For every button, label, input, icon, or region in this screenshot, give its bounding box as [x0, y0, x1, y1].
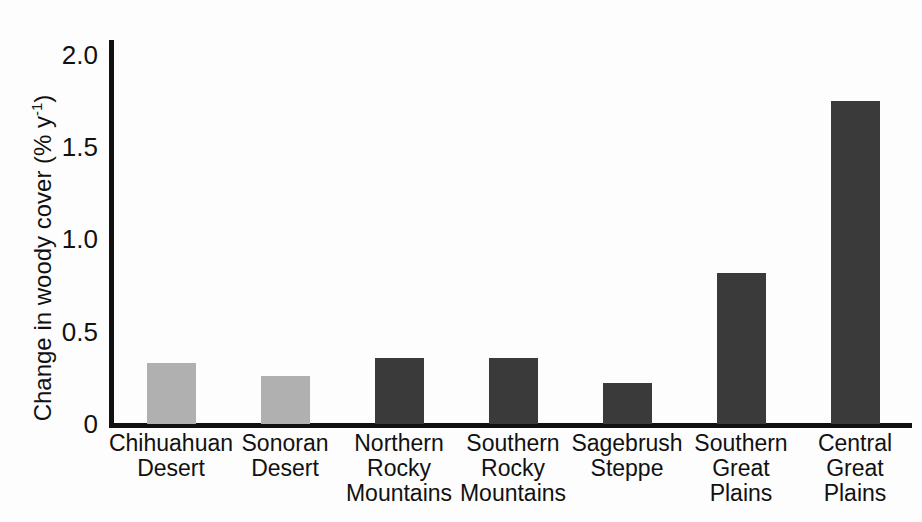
x-axis-category-label-line: Mountains [444, 481, 582, 506]
bar-chart-figure: Change in woody cover (% y-1) 00.51.01.5… [0, 0, 922, 522]
y-axis-tick-label: 1.5 [28, 132, 98, 163]
bar [831, 101, 880, 424]
bar [603, 383, 652, 424]
bar [717, 273, 766, 424]
bar [147, 363, 196, 424]
y-axis-tick-label: 2.0 [28, 39, 98, 70]
x-axis-category-label-line: Great [786, 456, 922, 481]
bar [261, 376, 310, 424]
plot-area [114, 40, 912, 424]
x-axis-category-labels: ChihuahuanDesertSonoranDesertNorthernRoc… [114, 431, 912, 521]
bar [375, 358, 424, 424]
x-axis-category-label-line: Central [786, 431, 922, 456]
y-axis-tick-label: 0 [28, 409, 98, 440]
x-axis-category-label-line: Plains [786, 481, 922, 506]
bar [489, 358, 538, 424]
y-axis-tick-label: 1.0 [28, 224, 98, 255]
y-axis-tick-label: 0.5 [28, 316, 98, 347]
x-axis-category-label: CentralGreatPlains [786, 431, 922, 506]
y-axis-tick-labels: 00.51.01.52.0 [30, 0, 98, 522]
